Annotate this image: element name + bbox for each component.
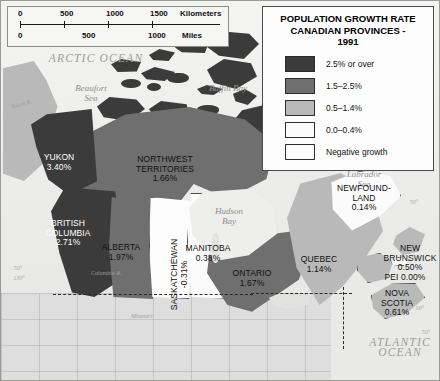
- population-growth-map: 0 500 1000 1500 Kilometers 0 500 1000 Mi…: [0, 0, 440, 381]
- province-label-yukon: YUKON 3.40%: [31, 153, 87, 172]
- scale-km-unit: Kilometers: [180, 9, 221, 18]
- label-arctic-ocean: ARCTIC OCEAN: [41, 53, 151, 63]
- scale-km-label-500: 500: [60, 9, 73, 18]
- scale-km-label-1500: 1500: [150, 9, 168, 18]
- legend-label-negative: Negative growth: [326, 147, 387, 157]
- legend-swatch-0-0-to-0-4: [285, 122, 315, 138]
- label-beaufort-sea: Beaufort Sea: [63, 83, 119, 103]
- province-label-new-brunswick: NEW BRUNSWICK 0.50%: [383, 244, 437, 273]
- scale-mi-unit: Miles: [182, 31, 202, 40]
- legend-row-negative: Negative growth: [271, 141, 425, 163]
- legend-row-0-0-to-0-4: 0.0–0.4%: [271, 119, 425, 141]
- arctic-island: [167, 73, 189, 83]
- legend-title: POPULATION GROWTH RATE CANADIAN PROVINCE…: [271, 13, 425, 48]
- legend-swatch-over-2-5: [285, 56, 315, 72]
- province-label-pei: PEI 0.00%: [379, 273, 431, 283]
- legend-swatch-negative: [285, 144, 315, 160]
- legend-row-1-5-to-2-5: 1.5–2.5%: [271, 75, 425, 97]
- scale-bar: 0 500 1000 1500 Kilometers 0 500 1000 Mi…: [7, 6, 229, 47]
- legend-row-0-5-to-1-4: 0.5–1.4%: [271, 97, 425, 119]
- arctic-island: [147, 83, 161, 91]
- label-columbia-river: Columbia R.: [91, 270, 121, 276]
- scale-km-label-1000: 1000: [106, 9, 124, 18]
- label-baffin-bay: Baffin Bay: [197, 83, 259, 93]
- legend-label-0-0-to-0-4: 0.0–0.4%: [326, 125, 362, 135]
- province-label-saskatchewan: SASKATCHEWAN -0.31%: [170, 227, 189, 323]
- label-latitude-50-right: 50°: [407, 197, 421, 207]
- province-label-manitoba: MANITOBA 0.38%: [179, 244, 237, 263]
- scale-mi-label-500: 500: [82, 31, 95, 40]
- province-label-british-columbia: BRITISH COLUMBIA 2.71%: [37, 219, 99, 248]
- label-atlantic-ocean: ATLANTIC OCEAN: [363, 337, 437, 357]
- legend-row-over-2-5: 2.5% or over: [271, 53, 425, 75]
- scale-mi-label-0: 0: [18, 31, 22, 40]
- legend-swatch-0-5-to-1-4: [285, 100, 315, 116]
- province-label-nova-scotia: NOVA SCOTIA 0.61%: [371, 289, 423, 318]
- label-longitude-130: 130°: [9, 273, 29, 283]
- legend-label-over-2-5: 2.5% or over: [326, 59, 374, 69]
- province-label-northwest-territories: NORTHWEST TERRITORIES 1.66%: [119, 155, 211, 184]
- scale-mi-label-1000: 1000: [148, 31, 166, 40]
- map-legend: POPULATION GROWTH RATE CANADIAN PROVINCE…: [262, 6, 434, 171]
- legend-label-0-5-to-1-4: 0.5–1.4%: [326, 103, 362, 113]
- arctic-island: [121, 79, 141, 88]
- international-border: [53, 294, 253, 295]
- legend-label-1-5-to-2-5: 1.5–2.5%: [326, 81, 362, 91]
- international-border-maritime: [343, 287, 345, 349]
- province-label-newfoundland: NEWFOUND- LAND 0.14%: [333, 184, 395, 213]
- label-latitude-50-left: 50°: [11, 263, 25, 273]
- legend-swatch-1-5-to-2-5: [285, 78, 315, 94]
- province-label-quebec: QUEBEC 1.14%: [293, 255, 345, 274]
- label-longitude-50: 50°: [419, 327, 433, 337]
- label-missouri-river: Missouri: [131, 313, 152, 319]
- label-hudson-bay: Hudson Bay: [201, 206, 257, 226]
- province-label-alberta: ALBERTA 1.97%: [93, 243, 149, 262]
- province-label-ontario: ONTARIO 1.67%: [223, 269, 281, 288]
- scale-km-label-0: 0: [18, 9, 22, 18]
